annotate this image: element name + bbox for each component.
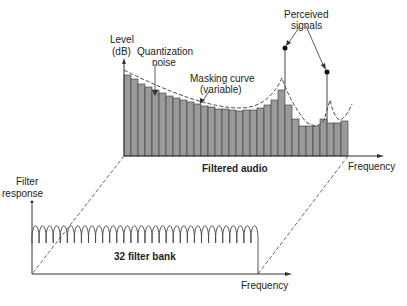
bar <box>131 79 138 156</box>
bar <box>187 102 194 156</box>
top-y-label-line1: Level <box>110 34 134 45</box>
bar <box>173 98 180 156</box>
bar <box>306 126 313 156</box>
bar <box>166 96 173 156</box>
signal-dot-2 <box>325 70 330 75</box>
bar <box>159 93 166 156</box>
bar <box>250 110 257 156</box>
filter-bank-diagram: Level (dB) Quantization noise Masking cu… <box>0 0 407 306</box>
filter-bank-curves <box>32 226 258 274</box>
mask-curve-label-line2: (variable) <box>200 84 242 95</box>
mask-curve-label-line1: Masking curve <box>190 73 255 84</box>
top-chart: Level (dB) Quantization noise Masking cu… <box>110 9 395 174</box>
bottom-x-label: Frequency <box>241 280 288 291</box>
signals-label-line2: signals <box>291 20 322 31</box>
bar <box>222 109 229 156</box>
bar <box>180 100 187 156</box>
bar <box>138 84 145 156</box>
bar <box>334 123 341 156</box>
bar <box>145 87 152 156</box>
bottom-y-label-line2: response <box>2 188 44 199</box>
bar <box>201 106 208 156</box>
top-y-axis-arrow-icon <box>122 58 126 64</box>
top-x-axis-arrow-icon <box>377 154 384 158</box>
signal-dot-1 <box>283 46 288 51</box>
bar <box>341 121 348 156</box>
bottom-caption: 32 filter bank <box>114 251 176 262</box>
bar <box>292 119 299 156</box>
bar <box>299 126 306 156</box>
bottom-y-label-line1: Filter <box>16 176 39 187</box>
bar <box>194 104 201 156</box>
bar <box>264 105 271 156</box>
bar <box>271 100 278 156</box>
quant-noise-label-line2: noise <box>152 57 176 68</box>
bar <box>229 110 236 156</box>
bar <box>320 119 327 156</box>
top-caption: Filtered audio <box>202 163 268 174</box>
bar <box>278 90 285 156</box>
top-y-label-line2: (dB) <box>112 46 131 57</box>
bottom-chart: Filter response 32 filter bank Frequency <box>2 176 292 291</box>
bar <box>257 108 264 156</box>
bar <box>208 107 215 156</box>
bar <box>124 75 131 156</box>
bar <box>327 123 334 156</box>
bottom-x-axis-arrow-icon <box>285 272 292 276</box>
bar <box>215 109 222 156</box>
bar <box>285 105 292 156</box>
quant-noise-label-line1: Quantization <box>137 46 193 57</box>
projection-line-left <box>32 156 124 274</box>
signals-label-line1: Perceived <box>284 9 328 20</box>
bar <box>152 90 159 156</box>
signals-pointer-2-arrow-icon <box>321 63 326 70</box>
bottom-y-axis-arrow-icon <box>31 201 34 204</box>
bar <box>243 110 250 156</box>
top-x-label: Frequency <box>348 161 395 172</box>
projection-line-right <box>258 156 348 274</box>
signals-pointer-2 <box>306 26 324 67</box>
bar <box>313 126 320 156</box>
bar <box>236 111 243 156</box>
